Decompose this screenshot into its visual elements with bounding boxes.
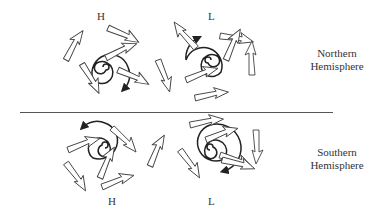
north-high-label: H (97, 10, 105, 22)
south-low-system (177, 112, 263, 180)
northern-hemisphere-line1: Northern (300, 47, 374, 60)
south-high-system (63, 121, 168, 193)
diagram-canvas (0, 0, 380, 214)
south-high-arrow-2 (63, 159, 92, 193)
south-high-arrow-1 (66, 132, 102, 154)
north-high-arrow-4 (116, 64, 151, 88)
south-high-arrow-5 (144, 132, 168, 167)
hemisphere-divider (20, 112, 333, 113)
north-low-label: L (208, 10, 215, 22)
southern-hemisphere-line2: Hemisphere (300, 159, 374, 172)
south-high-arrow-4 (94, 144, 118, 179)
northern-hemisphere-label: Northern Hemisphere (300, 47, 374, 73)
north-high-arrow-2 (106, 22, 141, 46)
south-low-arrow-3 (252, 130, 263, 164)
north-low-system (169, 19, 256, 102)
northern-hemisphere-line2: Hemisphere (300, 60, 374, 73)
north-high-arrow-1 (60, 27, 87, 62)
north-low-arrow-6 (169, 19, 199, 52)
south-low-arrow-5 (177, 146, 206, 180)
north-low-arrow-3 (245, 41, 256, 75)
southern-hemisphere-label: Southern Hemisphere (300, 146, 374, 172)
north-high-arrow-5 (154, 58, 176, 94)
south-low-label: L (208, 195, 215, 207)
pressure-systems-diagram: H L H L Northern Hemisphere Southern Hem… (0, 0, 380, 214)
north-low-arrow-5 (194, 85, 229, 102)
north-high-arrow-6 (79, 61, 106, 96)
north-high-system (60, 22, 176, 96)
southern-hemisphere-line1: Southern (300, 146, 374, 159)
north-low-arrow-2 (220, 26, 244, 61)
south-high-label: H (108, 195, 116, 207)
